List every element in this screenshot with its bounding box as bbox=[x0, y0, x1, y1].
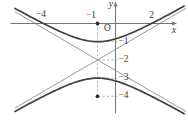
hyperbola-graph: y x O −4 −1 2 −1 −2 −3 −4 bbox=[0, 0, 188, 124]
y-tick-label-neg2: −2 bbox=[118, 55, 128, 65]
y-tick-label-neg3: −3 bbox=[118, 73, 128, 83]
origin-label: O bbox=[104, 24, 111, 34]
x-axis-label: x bbox=[172, 25, 176, 35]
y-tick-label-neg4: −4 bbox=[118, 92, 128, 102]
x-tick-label-2: 2 bbox=[149, 11, 154, 21]
y-axis-label: y bbox=[109, 0, 113, 9]
x-tick-label-neg4: −4 bbox=[36, 10, 46, 20]
x-tick-label-neg1: −1 bbox=[86, 11, 96, 21]
y-tick-label-neg1: −1 bbox=[118, 37, 128, 47]
